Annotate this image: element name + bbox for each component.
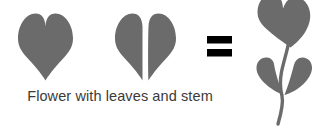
flower-stem-shape	[278, 41, 289, 124]
split-heart-left-half-shape	[115, 14, 143, 81]
equation-graphic	[0, 0, 327, 128]
flower-equation-figure: Flower with leaves and stem	[0, 0, 327, 128]
figure-caption: Flower with leaves and stem	[0, 88, 240, 104]
equals-operator-icon	[207, 36, 232, 57]
flower-head-heart-shape	[258, 0, 311, 48]
split-heart-right-half-shape	[148, 14, 176, 81]
flower-right-leaf-shape	[285, 58, 313, 96]
flower-result-shape	[257, 0, 313, 124]
whole-heart-shape	[18, 14, 73, 81]
